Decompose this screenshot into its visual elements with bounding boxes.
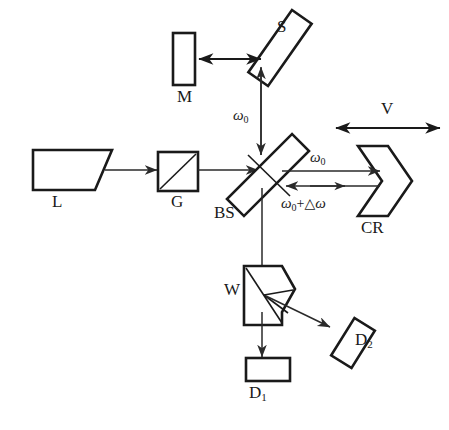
omega-shifted-delta-symbol: ω <box>315 195 326 211</box>
omega-shifted-label: ω0+△ω <box>281 196 326 213</box>
reference-mirror-label: M <box>177 88 192 105</box>
corner-reflector-label: CR <box>361 219 384 236</box>
detector-two-label: D2 <box>355 331 373 350</box>
omega-out-symbol: ω <box>310 149 321 165</box>
omega-out-label: ω0 <box>310 150 326 167</box>
beam-splitter-label: BS <box>214 204 235 221</box>
detector-one-subscript: 1 <box>261 391 267 403</box>
velocity-label: V <box>381 100 393 117</box>
corner-reflector-shape <box>358 146 412 216</box>
detector-one-shape <box>246 358 290 381</box>
wollaston-prism-shape <box>244 266 295 325</box>
omega-ref-symbol: ω <box>233 107 244 123</box>
detector-two-subscript: 2 <box>367 338 373 350</box>
omega-ref-subscript: 0 <box>244 114 249 125</box>
laser-source-shape <box>33 150 112 190</box>
detector-one-letter: D <box>249 383 261 402</box>
wollaston-label: W <box>224 281 240 298</box>
omega-out-subscript: 0 <box>321 156 326 167</box>
omega-shifted-operator: + <box>297 196 305 211</box>
laser-source-label: L <box>52 193 62 210</box>
delta-triangle-icon: △ <box>305 196 316 211</box>
detector-one-label: D1 <box>249 384 267 403</box>
reference-mirror-shape <box>173 33 195 85</box>
scanning-mirror-label: S <box>277 18 286 35</box>
detector-two-letter: D <box>355 330 367 349</box>
omega-shifted-symbol: ω <box>281 195 292 211</box>
omega-ref-label: ω0 <box>233 108 249 125</box>
grating-label: G <box>171 193 183 210</box>
optical-diagram-figure: L G BS S M CR W D1 D2 V ω0 ω0 ω0+△ω <box>0 0 449 430</box>
